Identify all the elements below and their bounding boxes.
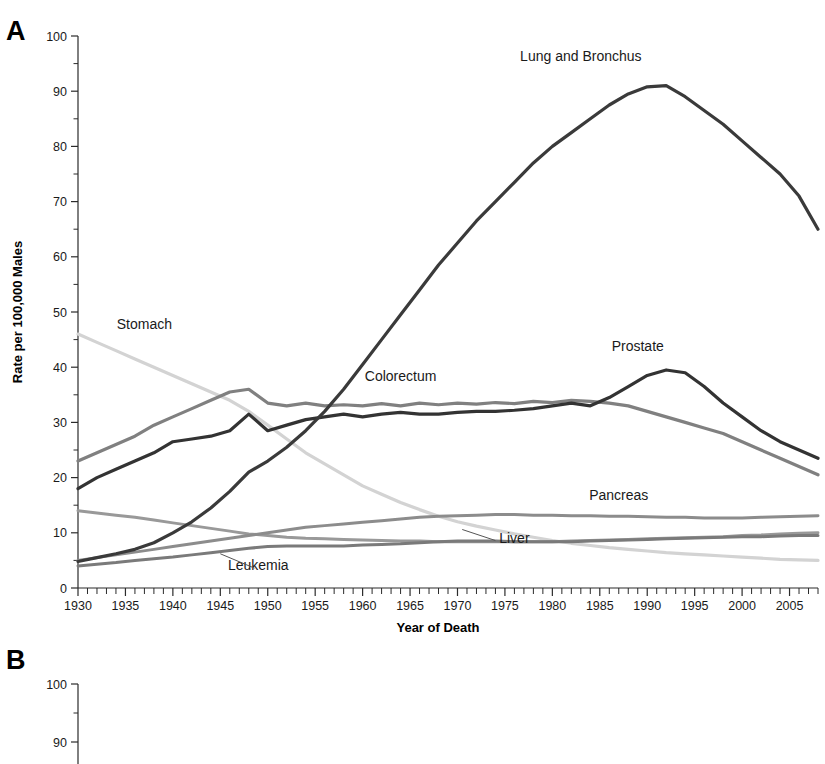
- y-tick-label: 90: [53, 85, 67, 99]
- x-tick-label: 2000: [728, 599, 756, 613]
- x-tick-label: 1990: [633, 599, 661, 613]
- x-tick-label: 2005: [776, 599, 804, 613]
- panel-b-y-tick-label: 100: [46, 678, 67, 692]
- series-label-stomach: Stomach: [117, 316, 172, 332]
- x-tick-label: 1985: [586, 599, 614, 613]
- y-tick-label: 70: [53, 195, 67, 209]
- x-tick-label: 1980: [538, 599, 566, 613]
- series-label-lung-and-bronchus: Lung and Bronchus: [520, 48, 641, 64]
- x-tick-label: 1945: [206, 599, 234, 613]
- x-axis-title: Year of Death: [396, 620, 479, 635]
- x-tick-label: 1960: [349, 599, 377, 613]
- y-tick-label: 100: [46, 30, 67, 44]
- panel-b-y-tick-label: 90: [53, 736, 67, 750]
- x-tick-label: 1940: [159, 599, 187, 613]
- series-label-prostate: Prostate: [612, 338, 664, 354]
- x-tick-label: 1935: [112, 599, 140, 613]
- series-label-liver: Liver: [499, 530, 530, 546]
- y-tick-label: 40: [53, 361, 67, 375]
- y-axis-title: Rate per 100,000 Males: [10, 241, 25, 383]
- series-label-leukemia: Leukemia: [228, 557, 289, 573]
- x-tick-label: 1965: [396, 599, 424, 613]
- y-tick-label: 30: [53, 416, 67, 430]
- x-tick-label: 1975: [491, 599, 519, 613]
- y-tick-label: 0: [60, 582, 67, 596]
- x-tick-label: 1970: [444, 599, 472, 613]
- x-tick-label: 1995: [681, 599, 709, 613]
- y-tick-label: 10: [53, 526, 67, 540]
- x-tick-label: 1930: [64, 599, 92, 613]
- x-tick-label: 1950: [254, 599, 282, 613]
- y-tick-label: 60: [53, 250, 67, 264]
- cancer-death-rates-figure: A B 010203040506070809010019301935194019…: [0, 0, 825, 764]
- y-axis-title-group: Rate per 100,000 Males: [10, 241, 25, 383]
- x-tick-label: 1955: [301, 599, 329, 613]
- y-tick-label: 20: [53, 471, 67, 485]
- series-line-colorectum: [78, 389, 818, 475]
- series-line-leukemia: [78, 536, 818, 566]
- line-chart-panel-a: 0102030405060708090100193019351940194519…: [0, 0, 825, 764]
- series-label-pancreas: Pancreas: [589, 487, 648, 503]
- series-line-lung-and-bronchus: [78, 86, 818, 562]
- y-tick-label: 50: [53, 306, 67, 320]
- series-label-colorectum: Colorectum: [365, 368, 437, 384]
- liver-leader-line: [462, 529, 495, 540]
- y-tick-label: 80: [53, 140, 67, 154]
